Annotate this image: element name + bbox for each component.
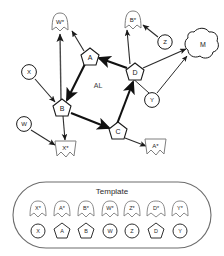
- node-label: D: [132, 69, 137, 76]
- node-label: A: [88, 54, 93, 61]
- template-panel: Template X* X A* A B* B W* W: [13, 182, 211, 248]
- node-label: A*: [152, 143, 159, 149]
- node-label: B*: [130, 17, 137, 23]
- diagram-canvas: W* B* Z M A D X Y B W: [0, 0, 224, 256]
- node-z[interactable]: Z: [158, 35, 172, 49]
- template-item-top-label: Z*: [129, 205, 135, 211]
- template-item-bottom-label: W: [107, 228, 113, 234]
- node-label: M: [200, 41, 206, 48]
- node-label: Y: [150, 97, 154, 103]
- node-label: W*: [56, 19, 65, 25]
- area-label: AL: [94, 82, 103, 89]
- node-label: C: [115, 128, 120, 135]
- node-label: X*: [62, 145, 69, 151]
- node-x[interactable]: X: [22, 65, 37, 80]
- node-label: B: [60, 105, 65, 112]
- template-item-bottom-label: A: [60, 228, 64, 234]
- template-item-bottom-label: Y: [178, 228, 182, 234]
- template-item-top-label: X*: [35, 205, 42, 211]
- template-item-top-label: W*: [106, 205, 114, 211]
- node-w[interactable]: W: [17, 117, 32, 132]
- template-title: Template: [96, 187, 129, 196]
- node-label: Z: [163, 39, 167, 45]
- template-item-top-label: Y*: [177, 205, 184, 211]
- node-xstar[interactable]: X*: [55, 141, 76, 157]
- template-item-top-label: D*: [153, 205, 160, 211]
- template-item-top-label: A*: [59, 205, 66, 211]
- node-wstar[interactable]: W*: [52, 13, 68, 31]
- edge-b-wstar: [60, 34, 61, 100]
- node-label: W: [21, 121, 27, 127]
- template-item-top-label: B*: [83, 205, 90, 211]
- node-label: X: [27, 69, 31, 75]
- template-item-bottom-label: D: [154, 228, 158, 234]
- template-item-bottom-label: B: [84, 228, 88, 234]
- node-astar[interactable]: A*: [145, 139, 166, 155]
- template-item-bottom-label: X: [36, 228, 40, 234]
- node-bstar[interactable]: B*: [125, 11, 141, 29]
- node-y[interactable]: Y: [145, 93, 160, 108]
